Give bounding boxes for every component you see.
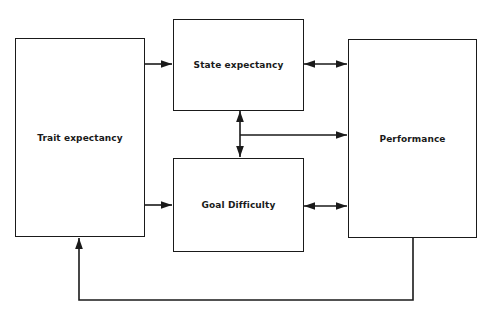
node-performance: Performance	[348, 39, 477, 238]
node-label: State expectancy	[194, 60, 284, 70]
node-label: Goal Difficulty	[202, 200, 276, 210]
node-trait-expectancy: Trait expectancy	[15, 38, 145, 237]
node-state-expectancy: State expectancy	[173, 19, 304, 111]
node-label: Performance	[379, 134, 445, 144]
node-goal-difficulty: Goal Difficulty	[173, 158, 304, 252]
node-label: Trait expectancy	[37, 133, 123, 143]
